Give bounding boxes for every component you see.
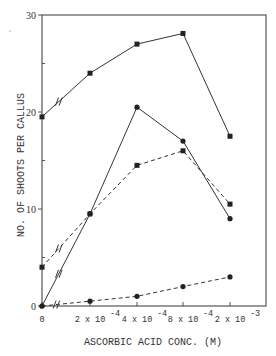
axis-break-mark bbox=[59, 98, 62, 106]
series-line-solid-circles bbox=[42, 107, 230, 306]
x-tick-exponent: -4 bbox=[203, 309, 213, 319]
data-point-square bbox=[181, 31, 186, 36]
x-tick-label: 8 x 10 bbox=[168, 315, 199, 325]
data-point-circle bbox=[134, 105, 139, 110]
data-point-square bbox=[88, 211, 93, 216]
data-point-square bbox=[135, 163, 140, 168]
axis-break-mark bbox=[53, 301, 56, 309]
data-point-square bbox=[181, 148, 186, 153]
x-tick-exponent: -4 bbox=[110, 309, 120, 319]
y-axis-title: NO. OF SHOOTS PER CALLUS bbox=[16, 93, 27, 237]
data-point-circle bbox=[87, 299, 92, 304]
x-tick-label: 2 x 10 bbox=[215, 315, 246, 325]
y-tick-label: 10 bbox=[26, 204, 36, 215]
data-point-circle bbox=[39, 303, 44, 308]
y-tick-label: 20 bbox=[26, 107, 36, 118]
x-tick-label: 2 x 10 bbox=[75, 315, 106, 325]
line-chart: 0102030 02 x 10-44 x 10-48 x 10-42 x 10-… bbox=[0, 0, 276, 356]
axis-break-mark bbox=[56, 245, 59, 253]
axis-break-mark bbox=[56, 98, 59, 106]
data-point-square bbox=[88, 71, 93, 76]
data-point-square bbox=[135, 42, 140, 47]
speck bbox=[9, 30, 11, 32]
data-point-square bbox=[228, 202, 233, 207]
x-tick-label: 4 x 10 bbox=[122, 315, 153, 325]
series-layer bbox=[39, 31, 232, 309]
y-tick-label: 30 bbox=[26, 10, 36, 21]
axis-break-mark bbox=[59, 245, 62, 253]
y-tick-label: 0 bbox=[31, 301, 36, 312]
x-tick-exponent: -4 bbox=[157, 309, 167, 319]
series-line-solid-squares bbox=[42, 33, 230, 136]
x-tick-label: 0 bbox=[39, 315, 44, 325]
plot-frame bbox=[42, 15, 266, 306]
x-axis-title: ASCORBIC ACID CONC. (M) bbox=[84, 337, 222, 348]
data-point-circle bbox=[180, 139, 185, 144]
data-point-circle bbox=[180, 284, 185, 289]
x-tick-exponent: -3 bbox=[250, 309, 260, 319]
series-line-dashed-circles bbox=[42, 277, 230, 306]
data-point-circle bbox=[227, 216, 232, 221]
data-point-circle bbox=[227, 274, 232, 279]
series-line-dashed-squares bbox=[42, 151, 230, 267]
data-point-square bbox=[40, 114, 45, 119]
data-point-square bbox=[40, 265, 45, 270]
data-point-circle bbox=[134, 294, 139, 299]
data-point-square bbox=[228, 134, 233, 139]
